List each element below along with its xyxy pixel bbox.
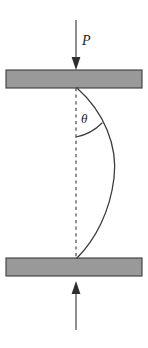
angle-arc: [76, 123, 102, 137]
bottom-load-arrowhead-icon: [72, 281, 81, 294]
load-label: P: [81, 33, 91, 48]
angle-label: θ: [81, 111, 88, 126]
top-plate: [6, 70, 142, 88]
diagram-canvas: P θ: [0, 0, 148, 348]
buckled-column-figure: P θ: [0, 0, 148, 348]
top-load-arrowhead-icon: [72, 57, 81, 70]
bottom-plate: [6, 258, 142, 276]
